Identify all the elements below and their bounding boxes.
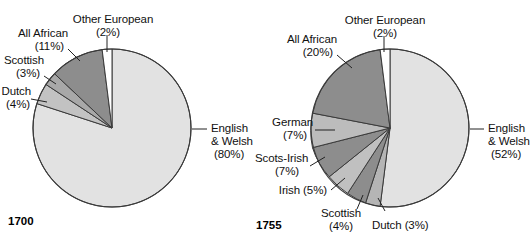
caption-year-1700: 1700 [8, 215, 34, 227]
label-english-welsh-line1: English [488, 122, 525, 134]
label-german-name: German [259, 116, 313, 128]
label-other-european-name: Other European [58, 13, 168, 25]
label-english-welsh-value: (52%) [491, 148, 521, 160]
label-dutch-name: Dutch [0, 85, 31, 97]
caption-year-1755: 1755 [256, 219, 282, 231]
pie-slices-1700 [33, 49, 191, 207]
label-dutch: Dutch (3%) [372, 219, 429, 231]
label-irish: Irish (5%) [267, 184, 327, 196]
label-english-welsh-value: (80%) [214, 148, 244, 160]
pie-panel-1755: Other European (2%) All African (20%) Ge… [259, 0, 518, 240]
label-other-european-name: Other European [329, 14, 441, 26]
label-scottish-value: (3%) [0, 67, 40, 79]
label-all-african-name: All African [269, 33, 337, 45]
label-other-european-value: (2%) [80, 26, 136, 38]
label-all-african-value: (20%) [269, 46, 333, 58]
label-scots-irish-name: Scots-Irish [255, 152, 307, 164]
label-dutch-value: (4%) [0, 98, 30, 110]
label-english-welsh-line1: English [211, 122, 248, 134]
label-english-welsh-line2: & Welsh [488, 135, 530, 147]
label-german-value: (7%) [259, 129, 307, 141]
label-scottish-name: Scottish [0, 54, 44, 66]
label-scottish-value: (4%) [317, 220, 365, 232]
slice-english-welsh [380, 49, 469, 207]
label-all-african-value: (11%) [0, 40, 64, 52]
label-scots-irish-value: (7%) [255, 165, 299, 177]
label-scottish-name: Scottish [315, 207, 367, 219]
pie-panel-1700: Other European (2%) All African (11%) Sc… [0, 0, 259, 240]
pie-slices-1755 [311, 49, 469, 207]
label-english-welsh-line2: & Welsh [211, 135, 253, 147]
label-other-european-value: (2%) [357, 27, 413, 39]
label-all-african-name: All African [0, 27, 68, 39]
